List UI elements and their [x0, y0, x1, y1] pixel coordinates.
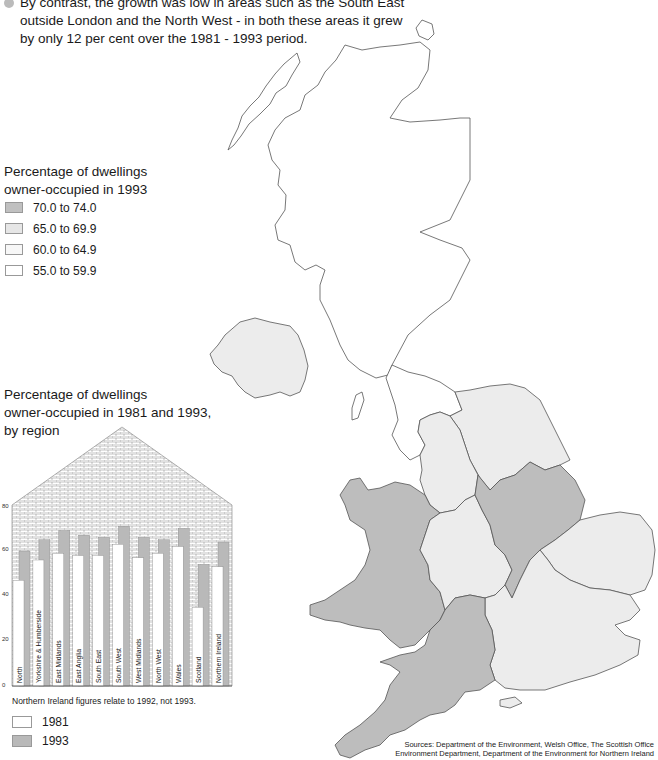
map-region-northern-ireland — [210, 318, 308, 398]
y-tick-60: 60 — [2, 546, 9, 552]
bar-category-label: North — [16, 666, 23, 683]
legend-label: 55.0 to 59.9 — [33, 264, 96, 278]
legend-swatch — [5, 265, 23, 276]
sources-line-2: Environment Department, Department of th… — [395, 749, 654, 758]
chart-title-line-1: Percentage of dwellings — [4, 386, 211, 404]
y-tick-20: 20 — [2, 636, 9, 642]
bar-category-label: East Anglia — [75, 649, 83, 683]
map-legend-item: 55.0 to 59.9 — [5, 260, 96, 281]
map-region-wales — [310, 478, 445, 648]
legend-label: 60.0 to 64.9 — [33, 243, 96, 257]
y-tick-80: 80 — [2, 503, 9, 509]
bar-category-label: Wales — [175, 664, 182, 683]
map-region-scotland — [268, 42, 470, 378]
chart-legend-item-1981: 1981 — [12, 712, 69, 731]
map-legend-item: 60.0 to 64.9 — [5, 239, 96, 260]
map-legend-title-line-1: Percentage of dwellings — [4, 163, 147, 181]
legend-swatch — [5, 223, 23, 234]
legend-label: 1993 — [42, 734, 69, 748]
map-region-isle-of-wight — [500, 697, 522, 708]
map-region-orkney — [416, 20, 434, 40]
bar-category-label: North West — [155, 649, 162, 683]
bar-category-label: Northern Ireland — [215, 634, 222, 683]
bar-category-label: Scotland — [195, 656, 202, 683]
sources-credit: Sources: Department of the Environment, … — [395, 740, 654, 758]
legend-swatch — [5, 244, 23, 255]
chart-footnote: Northern Ireland figures relate to 1992,… — [12, 696, 196, 706]
legend-label: 65.0 to 69.9 — [33, 222, 96, 236]
bar-category-label: East Midlands — [55, 640, 62, 683]
y-tick-0: 0 — [2, 682, 5, 688]
map-legend-title: Percentage of dwellings owner-occupied i… — [4, 163, 147, 199]
sources-line-1: Sources: Department of the Environment, … — [395, 740, 654, 749]
legend-label: 1981 — [42, 715, 69, 729]
legend-label: 70.0 to 74.0 — [33, 201, 96, 215]
map-legend: 70.0 to 74.0 65.0 to 69.9 60.0 to 64.9 5… — [5, 197, 96, 281]
chart-legend: 1981 1993 — [12, 712, 69, 750]
chart-legend-item-1993: 1993 — [12, 731, 69, 750]
legend-swatch — [5, 202, 23, 213]
bar-category-label: Yorkshire & Humberside — [35, 610, 42, 683]
map-legend-item: 65.0 to 69.9 — [5, 218, 96, 239]
map-legend-item: 70.0 to 74.0 — [5, 197, 96, 218]
legend-swatch — [12, 716, 32, 728]
legend-swatch — [12, 735, 32, 747]
y-tick-40: 40 — [2, 591, 9, 597]
bar-category-label: West Midlands — [135, 638, 142, 683]
bar-category-label: South West — [115, 648, 122, 683]
house-bar-chart: NorthYorkshire & HumbersideEast Midlands… — [0, 420, 240, 690]
bar-category-label: South East — [95, 650, 102, 683]
map-region-isle-of-man — [352, 392, 364, 420]
